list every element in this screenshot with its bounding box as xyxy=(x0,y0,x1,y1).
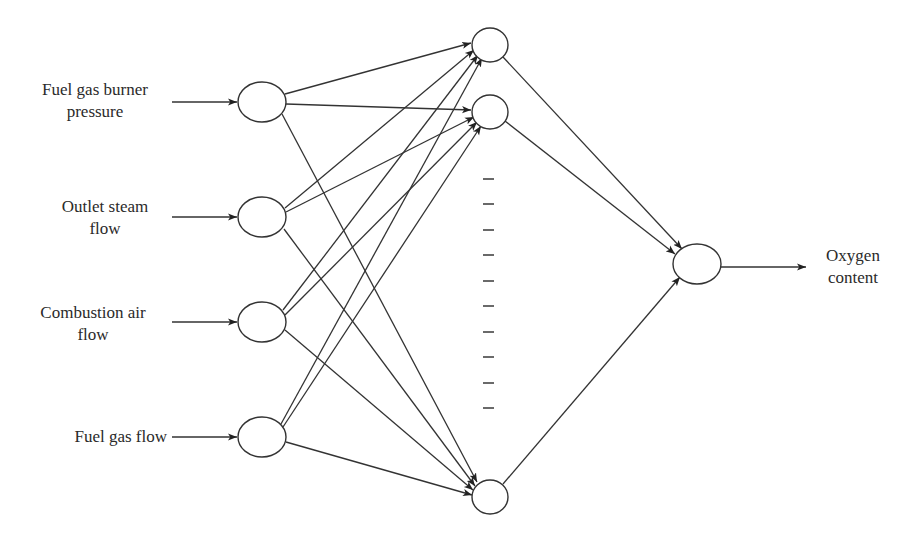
input-label-2-line2: flow xyxy=(42,218,168,240)
input-label-3-line2: flow xyxy=(18,324,168,346)
hidden-node-2 xyxy=(472,95,508,129)
hidden-ellipsis xyxy=(483,179,494,408)
input-label-4: Fuel gas flow xyxy=(20,426,167,448)
edge-i3-h3 xyxy=(285,330,473,490)
input-node-2 xyxy=(238,197,286,237)
input-label-3-line1: Combustion air xyxy=(18,302,168,324)
input-label-2: Outlet steam flow xyxy=(42,196,168,240)
input-label-1-line2: pressure xyxy=(22,101,168,123)
edge-i1-h3 xyxy=(282,114,477,482)
edge-i2-h2 xyxy=(286,117,474,212)
input-node-1 xyxy=(238,82,286,122)
edge-i3-h2 xyxy=(285,122,477,315)
output-label-line1: Oxygen xyxy=(810,245,896,267)
edge-h3-o xyxy=(503,277,680,484)
edge-h1-o xyxy=(503,57,682,249)
input-label-2-line1: Outlet steam xyxy=(42,196,168,218)
output-label: Oxygen content xyxy=(810,245,896,289)
input-label-1-line1: Fuel gas burner xyxy=(22,79,168,101)
output-label-line2: content xyxy=(810,267,896,289)
hidden-node-3 xyxy=(472,480,508,514)
edge-i4-h1 xyxy=(281,58,482,424)
edge-h2-o xyxy=(505,121,675,254)
edge-i1-h1 xyxy=(285,43,471,94)
output-node xyxy=(673,244,721,284)
input-node-4 xyxy=(238,417,286,457)
input-label-4-line1: Fuel gas flow xyxy=(20,426,167,448)
edge-i3-h1 xyxy=(283,55,478,310)
input-node-3 xyxy=(238,302,286,342)
edge-i1-h2 xyxy=(286,104,471,110)
input-label-1: Fuel gas burner pressure xyxy=(22,79,168,123)
hidden-node-1 xyxy=(472,28,508,62)
input-label-3: Combustion air flow xyxy=(18,302,168,346)
edge-i4-h3 xyxy=(286,442,472,495)
edge-i2-h3 xyxy=(284,229,475,486)
